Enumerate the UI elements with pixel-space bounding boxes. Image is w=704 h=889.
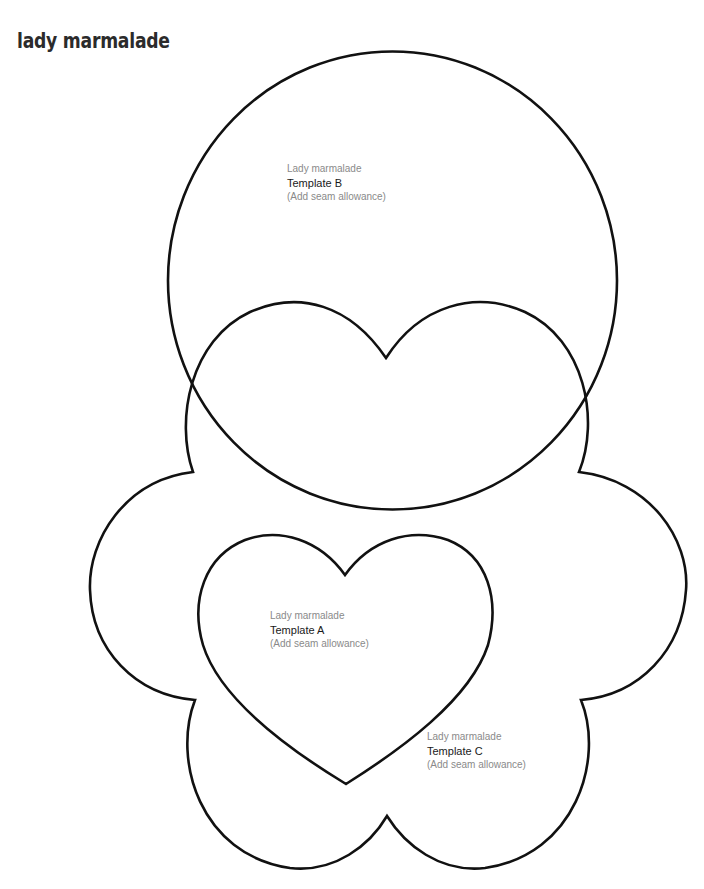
pattern-templates bbox=[0, 0, 704, 889]
template-a-brand: Lady marmalade bbox=[270, 609, 369, 623]
template-a-label: Lady marmalade Template A (Add seam allo… bbox=[270, 609, 369, 651]
template-b-note: (Add seam allowance) bbox=[287, 190, 386, 204]
template-b-label: Lady marmalade Template B (Add seam allo… bbox=[287, 162, 386, 204]
template-b-circle-outline bbox=[168, 52, 617, 510]
template-c-label: Lady marmalade Template C (Add seam allo… bbox=[427, 730, 526, 772]
template-c-name: Template C bbox=[427, 744, 526, 758]
template-c-note: (Add seam allowance) bbox=[427, 758, 526, 772]
template-c-flower-outline bbox=[90, 302, 686, 868]
template-a-note: (Add seam allowance) bbox=[270, 637, 369, 651]
template-c-brand: Lady marmalade bbox=[427, 730, 526, 744]
template-b-name: Template B bbox=[287, 176, 386, 190]
template-a-name: Template A bbox=[270, 623, 369, 637]
template-b-brand: Lady marmalade bbox=[287, 162, 386, 176]
